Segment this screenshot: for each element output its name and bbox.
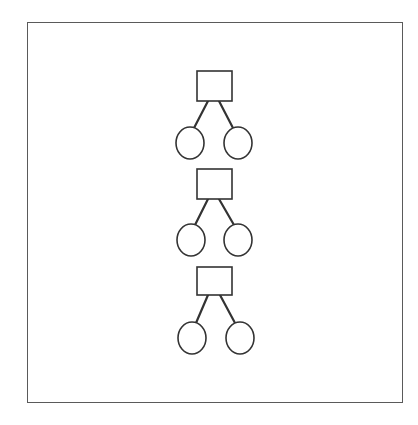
- child-circle-right: [226, 322, 254, 354]
- edge-left: [194, 101, 208, 128]
- edge-right: [219, 101, 233, 128]
- tree-2: [177, 169, 252, 256]
- parent-square: [197, 71, 232, 101]
- edge-left: [195, 199, 208, 225]
- child-circle-left: [178, 322, 206, 354]
- parent-square: [197, 267, 232, 295]
- child-circle-left: [176, 127, 204, 159]
- child-circle-left: [177, 224, 205, 256]
- child-circle-right: [224, 127, 252, 159]
- edge-right: [220, 295, 235, 323]
- tree-1: [176, 71, 252, 159]
- edge-right: [219, 199, 234, 225]
- tree-3: [178, 267, 254, 354]
- parent-square: [197, 169, 232, 199]
- child-circle-right: [224, 224, 252, 256]
- diagram-canvas: [0, 0, 418, 425]
- edge-left: [196, 295, 208, 323]
